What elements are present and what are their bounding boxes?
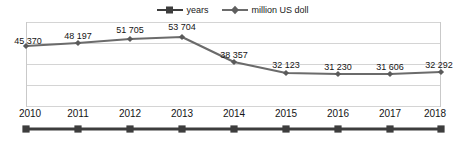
value-data-label: 38 357 (220, 50, 248, 60)
x-axis-label: 2017 (379, 108, 401, 119)
value-data-label: 31 230 (324, 62, 352, 72)
value-data-label: 48 197 (64, 31, 92, 41)
year-series-marker (126, 125, 133, 132)
value-data-label: 31 606 (376, 62, 404, 72)
gridline-bottom (26, 106, 441, 107)
year-series-marker (178, 125, 185, 132)
x-axis-label: 2011 (67, 108, 89, 119)
year-series-marker (437, 125, 444, 132)
x-axis-label: 2010 (19, 108, 41, 119)
value-data-label: 51 705 (116, 25, 144, 35)
chart-container: years million US doll 45 37048 19751 705… (0, 0, 466, 143)
legend-entry-years[interactable]: years (157, 1, 208, 19)
legend-entry-million-us-doll[interactable]: million US doll (222, 1, 308, 19)
year-series-marker (74, 125, 81, 132)
year-series-marker (334, 125, 341, 132)
x-axis-label: 2015 (275, 108, 297, 119)
year-series-marker (282, 125, 289, 132)
gridline-4 (26, 85, 441, 86)
legend-label-years: years (186, 6, 208, 15)
year-series-marker (22, 125, 29, 132)
x-axis-label: 2014 (223, 108, 245, 119)
year-series-marker (386, 125, 393, 132)
value-data-label: 45 370 (14, 36, 42, 46)
x-axis-label: 2012 (119, 108, 141, 119)
legend-marker-square-icon (157, 1, 183, 19)
legend-marker-diamond-icon (222, 1, 248, 19)
x-axis-label: 2013 (171, 108, 193, 119)
value-data-label: 53 704 (168, 22, 196, 32)
legend-label-million-us-doll: million US doll (251, 6, 308, 15)
value-data-label: 32 123 (272, 60, 300, 70)
series-years (22, 125, 444, 132)
y-axis-left (26, 22, 27, 107)
x-axis-label: 2016 (327, 108, 349, 119)
gridline-top (26, 22, 441, 23)
chart-legend: years million US doll (0, 1, 466, 19)
x-axis-label: 2018 (424, 108, 446, 119)
value-data-label: 32 292 (425, 60, 453, 70)
year-series-marker (230, 125, 237, 132)
gridline-2 (26, 43, 441, 44)
